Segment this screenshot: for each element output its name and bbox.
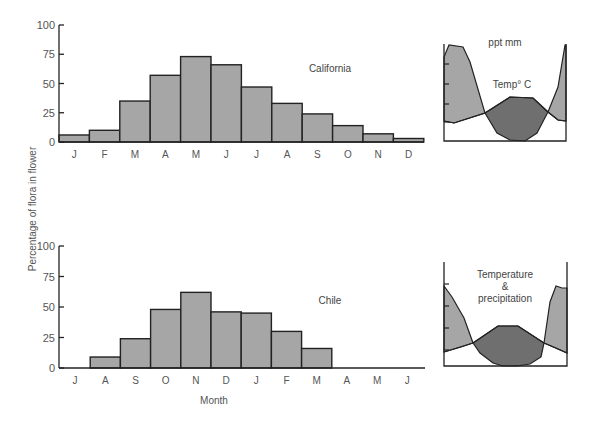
- month-label: N: [192, 375, 199, 386]
- temperature-label: Temperature: [477, 269, 534, 280]
- y-tick-label: 50: [43, 78, 55, 90]
- bar: [363, 134, 393, 142]
- california-chart: 0255075100JFMAMJJASONDCalifornia: [37, 19, 424, 160]
- y-tick-label: 100: [37, 240, 55, 252]
- month-label: O: [344, 149, 352, 160]
- temp-label: Temp° C: [493, 79, 531, 90]
- bar: [241, 87, 271, 142]
- bar: [302, 348, 332, 368]
- month-label: N: [375, 149, 382, 160]
- bar: [89, 130, 119, 142]
- month-label: F: [102, 149, 108, 160]
- month-label: O: [162, 375, 170, 386]
- bar: [211, 65, 241, 142]
- y-tick-label: 25: [43, 107, 55, 119]
- bar: [302, 114, 332, 142]
- month-label: D: [405, 149, 412, 160]
- month-label: A: [162, 149, 169, 160]
- ppt-label: ppt mm: [488, 37, 521, 48]
- bar: [272, 103, 302, 142]
- chart-title: California: [309, 63, 352, 74]
- precipitation-area-right: [544, 286, 567, 353]
- bar: [333, 126, 363, 142]
- y-tick-label: 50: [43, 301, 55, 313]
- y-tick-label: 25: [43, 332, 55, 344]
- month-label: D: [222, 375, 229, 386]
- precipitation-area-right: [548, 45, 566, 121]
- y-tick-label: 0: [49, 362, 55, 374]
- month-label: A: [284, 149, 291, 160]
- precipitation-label: precipitation: [478, 293, 532, 304]
- month-label: M: [373, 375, 381, 386]
- bar: [181, 57, 211, 142]
- ampersand-label: &: [502, 281, 509, 292]
- month-label: M: [131, 149, 139, 160]
- month-label: M: [192, 149, 200, 160]
- month-label: F: [283, 375, 289, 386]
- month-label: M: [313, 375, 321, 386]
- month-label: J: [224, 149, 229, 160]
- y-tick-label: 75: [43, 271, 55, 283]
- y-tick-label: 75: [43, 48, 55, 60]
- y-tick-label: 0: [49, 136, 55, 148]
- bar: [151, 309, 181, 368]
- bar: [241, 313, 271, 368]
- bar: [120, 101, 150, 142]
- california-climate-inset: ppt mmTemp° C: [444, 37, 566, 141]
- y-axis-title: Percentage of flora in flower: [27, 146, 38, 271]
- month-label: A: [102, 375, 109, 386]
- y-tick-label: 100: [37, 19, 55, 31]
- temperature-excess-area: [473, 326, 544, 366]
- chile-climate-inset: Temperature&precipitation: [444, 262, 567, 366]
- month-label: J: [405, 375, 410, 386]
- month-label: J: [72, 149, 77, 160]
- bar: [120, 339, 150, 368]
- bar: [211, 312, 241, 368]
- bar: [181, 292, 211, 368]
- month-label: J: [73, 375, 78, 386]
- chart-figure: 0255075100JFMAMJJASONDCalifornia02550751…: [0, 0, 590, 422]
- chile-chart: 0255075100JASONDJFMAMJChile: [37, 240, 425, 386]
- precipitation-area-left: [444, 45, 485, 123]
- month-label: S: [314, 149, 321, 160]
- month-label: A: [344, 375, 351, 386]
- chart-title: Chile: [319, 295, 342, 306]
- bar: [90, 357, 120, 368]
- month-label: S: [132, 375, 139, 386]
- precipitation-area-left: [444, 286, 473, 352]
- bar: [271, 331, 301, 368]
- month-label: J: [254, 375, 259, 386]
- x-axis-title: Month: [200, 395, 228, 406]
- bar: [59, 135, 89, 142]
- month-label: J: [254, 149, 259, 160]
- bar: [150, 75, 180, 142]
